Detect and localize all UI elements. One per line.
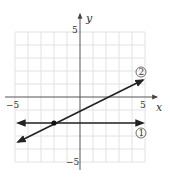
x-min-tick: −5: [6, 100, 20, 110]
svg-text:1: 1: [139, 128, 145, 138]
y-axis-label: y: [85, 12, 93, 25]
x-axis-label: x: [156, 101, 163, 114]
svg-text:2: 2: [139, 67, 145, 77]
coordinate-plot: y x −5 5 5 −5 2 1: [0, 0, 170, 180]
x-max-tick: 5: [140, 100, 146, 110]
y-max-tick: 5: [72, 25, 78, 35]
y-min-tick: −5: [66, 157, 80, 167]
intersection-point: [51, 120, 56, 125]
